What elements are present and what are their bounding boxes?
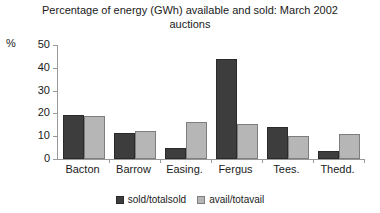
bar-group bbox=[267, 45, 309, 159]
y-tick-label: 40 bbox=[26, 62, 50, 73]
bar-sold-totalsold bbox=[216, 59, 237, 159]
bar-sold-totalsold bbox=[114, 133, 135, 159]
bar-group bbox=[318, 45, 360, 159]
bar-sold-totalsold bbox=[165, 148, 186, 159]
legend-label: sold/totalsold bbox=[128, 194, 186, 206]
bar-avail-totavail bbox=[288, 136, 309, 159]
legend-label: avail/totavail bbox=[209, 194, 264, 206]
bar-sold-totalsold bbox=[63, 115, 84, 159]
x-tick-label: Fergus bbox=[207, 163, 265, 176]
bar-group bbox=[216, 45, 258, 159]
y-tick-label: 50 bbox=[26, 39, 50, 50]
bar-avail-totavail bbox=[237, 124, 258, 159]
bar-avail-totavail bbox=[186, 122, 207, 159]
x-tick-label: Tees. bbox=[258, 163, 316, 176]
y-tick-label: 0 bbox=[26, 153, 50, 164]
x-tick-label: Easing. bbox=[156, 163, 214, 176]
legend-swatch-icon bbox=[116, 196, 124, 204]
x-tick-label: Thedd. bbox=[309, 163, 367, 176]
chart-legend: sold/totalsoldavail/totavail bbox=[0, 194, 380, 206]
bar-chart: Percentage of energy (GWh) available and… bbox=[0, 0, 380, 213]
y-axis-unit-label: % bbox=[6, 37, 16, 49]
y-tick-label: 10 bbox=[26, 130, 50, 141]
legend-swatch-icon bbox=[197, 196, 205, 204]
chart-title: Percentage of energy (GWh) available and… bbox=[34, 3, 346, 31]
bar-group bbox=[63, 45, 105, 159]
bar-sold-totalsold bbox=[267, 127, 288, 159]
bar-sold-totalsold bbox=[318, 151, 339, 159]
x-tick-label: Bacton bbox=[54, 163, 112, 176]
legend-item[interactable]: avail/totavail bbox=[197, 194, 264, 206]
bar-group bbox=[114, 45, 156, 159]
y-tick-label: 20 bbox=[26, 107, 50, 118]
legend-item[interactable]: sold/totalsold bbox=[116, 194, 186, 206]
bar-group bbox=[165, 45, 207, 159]
x-tick-label: Barrow bbox=[105, 163, 163, 176]
bar-avail-totavail bbox=[135, 131, 156, 160]
bar-avail-totavail bbox=[84, 116, 105, 159]
plot-area bbox=[57, 45, 364, 160]
y-tick-label: 30 bbox=[26, 85, 50, 96]
bar-avail-totavail bbox=[339, 134, 360, 159]
